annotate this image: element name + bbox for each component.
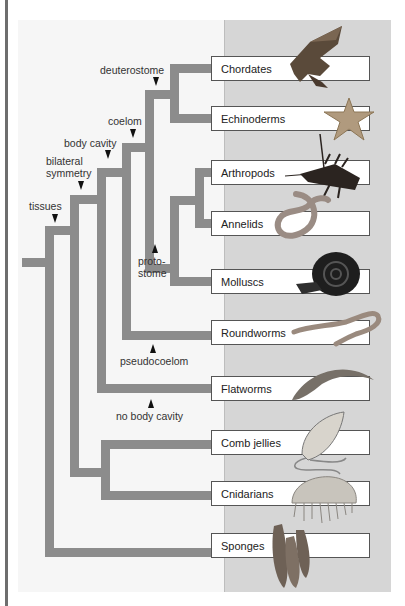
branch-coelom-node <box>122 143 131 339</box>
node-label-bilateral: bilateral <box>46 155 83 167</box>
arrow-body-cavity-icon <box>105 150 111 159</box>
earthworm-icon <box>266 190 336 242</box>
snail-icon <box>292 250 364 302</box>
node-label-symmetry: symmetry <box>46 167 92 179</box>
arrow-no-body-cavity-icon <box>148 399 154 408</box>
branch-roundworms <box>122 331 212 340</box>
branch-protostome-node <box>170 196 179 286</box>
branch-cnidarians <box>101 491 212 500</box>
node-label-proto: proto- <box>138 255 165 267</box>
hawk-icon <box>280 24 355 90</box>
branch-comb-jellies <box>101 440 212 449</box>
flatworm-icon <box>288 360 378 408</box>
node-label-tissues: tissues <box>29 200 62 212</box>
branch-tissues-node <box>45 226 54 557</box>
branch-echinoderms <box>170 114 212 123</box>
branch-sponges <box>45 548 212 557</box>
node-label-stome: stome <box>138 267 167 279</box>
arrow-protostome-icon <box>152 244 158 253</box>
arrow-pseudocoelom-icon <box>150 344 156 353</box>
branch-body-cavity-node <box>97 168 106 392</box>
arrow-bilateral-icon <box>78 181 84 190</box>
arrow-coelom-icon <box>130 129 136 138</box>
arrow-tissues-icon <box>52 214 58 223</box>
branch-flatworms <box>97 384 212 393</box>
branch-chordates <box>170 64 212 73</box>
left-border-rule <box>5 0 8 606</box>
sponge-icon <box>268 518 316 590</box>
node-label-pseudocoelom: pseudocoelom <box>120 355 188 367</box>
roundworm-icon <box>290 306 386 350</box>
node-label-body-cavity: body cavity <box>64 137 117 149</box>
branch-annelids <box>195 219 212 228</box>
arrow-deuterostome-icon <box>153 77 159 86</box>
comb-jelly-icon <box>286 410 356 480</box>
node-label-deuterostome: deuterostome <box>100 64 164 76</box>
branch-arthropods <box>195 168 212 177</box>
node-label-coelom: coelom <box>108 115 142 127</box>
branch-bilateral-node <box>70 195 79 477</box>
node-label-no-body-cavity: no body cavity <box>116 410 183 422</box>
branch-molluscs <box>170 277 212 286</box>
